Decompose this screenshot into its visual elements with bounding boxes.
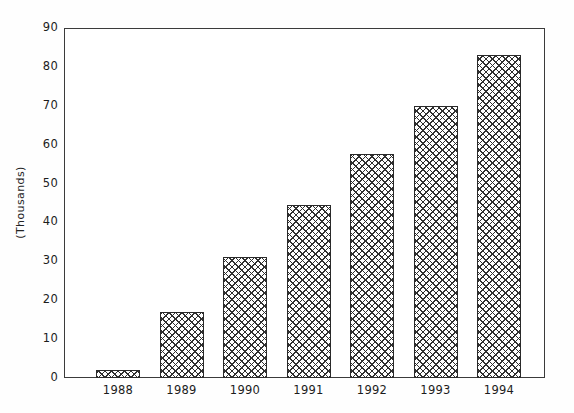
bars-layer (64, 28, 545, 378)
x-axis-tick-label: 1989 (152, 384, 212, 396)
bar-1994 (477, 55, 521, 378)
y-axis-tick-label: 70 (26, 100, 58, 112)
y-axis-tick-label: 40 (26, 216, 58, 228)
x-axis-tick-labels: 1988198919901991199219931994 (64, 384, 545, 404)
y-axis-tick-labels: 0102030405060708090 (26, 0, 58, 413)
y-axis-tick-label: 80 (26, 61, 58, 73)
x-axis-tick-label: 1993 (406, 384, 466, 396)
bar-1991 (287, 205, 331, 378)
y-axis-tick-label: 50 (26, 178, 58, 190)
bar-chart-figure: (Thousands) 0102030405060708090 19881989… (0, 0, 574, 413)
x-axis-tick-label: 1988 (88, 384, 148, 396)
bar-1992 (350, 154, 394, 378)
x-axis-tick-label: 1990 (215, 384, 275, 396)
bar-1988 (96, 370, 140, 378)
y-axis-tick-label: 90 (26, 22, 58, 34)
y-axis-tick-label: 30 (26, 255, 58, 267)
bar-1990 (223, 257, 267, 378)
x-axis-tick-label: 1992 (342, 384, 402, 396)
y-axis-tick-label: 10 (26, 333, 58, 345)
x-axis-tick-label: 1994 (469, 384, 529, 396)
y-axis-tick-label: 0 (26, 372, 58, 384)
x-axis-tick-label: 1991 (279, 384, 339, 396)
y-axis-tick-label: 20 (26, 294, 58, 306)
bar-1989 (160, 312, 204, 378)
y-axis-label-text: (Thousands) (14, 113, 27, 293)
bar-1993 (414, 106, 458, 378)
y-axis-tick-label: 60 (26, 139, 58, 151)
